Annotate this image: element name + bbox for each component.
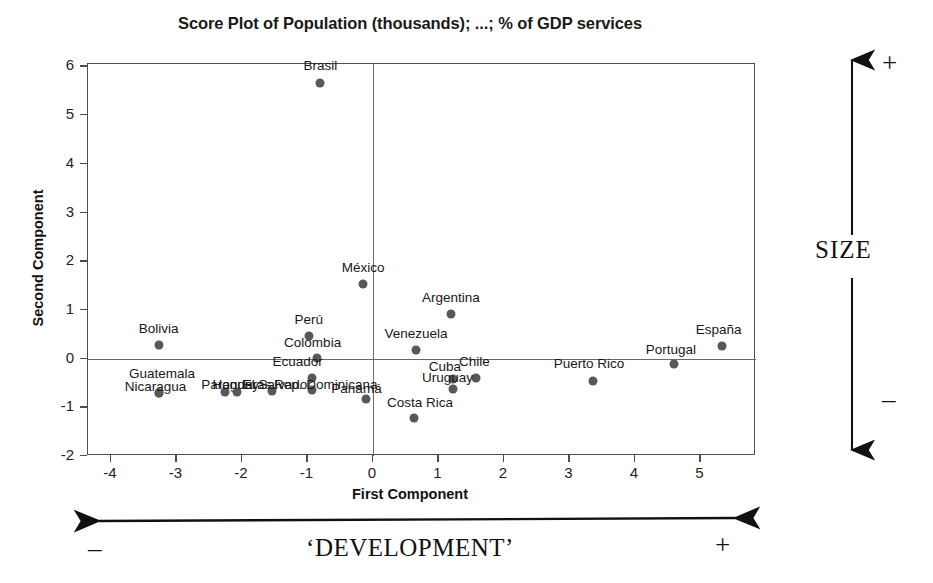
data-point-label: Ecuador [272,355,322,369]
y-tick-label: -2 [34,446,74,463]
data-point-label: Panamá [331,383,381,397]
x-axis-title: First Component [0,486,820,502]
data-point-label: Nicaragua [125,380,187,394]
x-tick [634,455,635,462]
x-tick [568,455,569,462]
data-point [448,384,457,393]
y-axis-title: Second Component [30,158,46,358]
y-tick [80,406,87,407]
x-tick [699,455,700,462]
development-axis-label: ‘DEVELOPMENT’ [0,534,820,562]
data-point [472,373,481,382]
x-tick [110,455,111,462]
data-point [588,376,597,385]
data-point [316,78,325,87]
y-tick [80,260,87,261]
y-tick [80,358,87,359]
x-tick [306,455,307,462]
size-axis-minus-sign: – [882,384,896,415]
data-point-label: Puerto Rico [554,358,625,372]
data-point [446,309,455,318]
data-point-label: Colombia [284,336,341,350]
y-tick [80,65,87,66]
size-axis-plus-sign: + [882,48,897,79]
data-point [410,414,419,423]
data-point [670,360,679,369]
x-tick-label: -1 [286,464,326,481]
data-point-label: Venezuela [385,328,448,342]
x-tick-label: 2 [483,464,523,481]
x-tick [503,455,504,462]
y-tick [80,455,87,456]
score-plot-figure: Score Plot of Population (thousands); ..… [0,0,933,583]
data-point [717,341,726,350]
data-point-label: Costa Rica [387,397,453,411]
y-tick [80,309,87,310]
plot-area: BrasilMéxicoArgentinaVenezuelaPerúColomb… [87,63,755,455]
development-axis-minus-sign: – [88,533,102,564]
data-point-label: Argentina [422,291,480,305]
data-point-label: Portugal [646,343,696,357]
data-point-label: Uruguay [422,371,473,385]
y-tick-label: 6 [34,56,74,73]
x-tick [175,455,176,462]
y-tick [80,114,87,115]
development-axis-plus-sign: + [715,530,730,561]
x-tick [241,455,242,462]
x-tick-label: -3 [155,464,195,481]
y-tick-label: 5 [34,105,74,122]
x-tick-label: 3 [548,464,588,481]
data-point-label: Chile [459,355,490,369]
data-point [154,341,163,350]
data-point [412,346,421,355]
x-tick-label: 5 [679,464,719,481]
y-tick [80,163,87,164]
data-point-label: Bolivia [139,323,179,337]
size-axis-label: SIZE [815,236,872,264]
x-tick [372,455,373,462]
x-tick-label: 0 [352,464,392,481]
y-tick-label: -1 [34,397,74,414]
x-tick-label: 4 [614,464,654,481]
data-point-label: Perú [294,313,323,327]
x-tick-label: -4 [90,464,130,481]
x-tick-label: 1 [417,464,457,481]
y-tick [80,212,87,213]
data-point-label: España [696,324,742,338]
data-point-label: Brasil [304,60,338,74]
data-point [359,279,368,288]
x-tick-label: -2 [221,464,261,481]
data-point-label: México [342,261,385,275]
origin-horizontal-line [88,359,756,360]
x-tick [437,455,438,462]
chart-title: Score Plot of Population (thousands); ..… [0,14,820,33]
